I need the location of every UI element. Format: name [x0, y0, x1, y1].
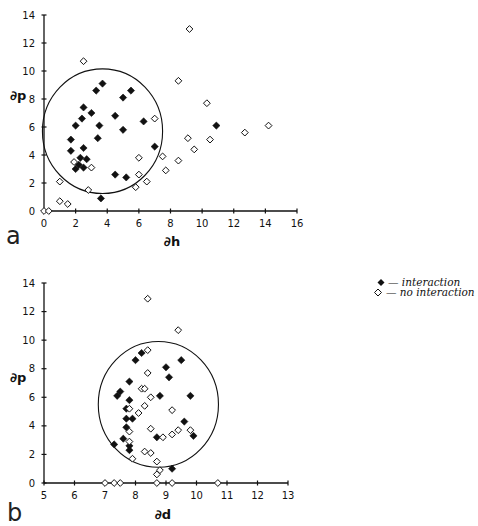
data-point-no-interaction	[175, 327, 182, 334]
data-point-no-interaction	[135, 154, 142, 161]
y-tick-label: 0	[29, 478, 35, 489]
data-point-no-interaction	[169, 480, 176, 487]
y-tick-label: 6	[29, 392, 35, 403]
data-point-no-interaction	[141, 402, 148, 409]
y-tick-label: 10	[22, 335, 35, 346]
data-point-no-interaction	[147, 425, 154, 432]
data-point-interaction	[156, 392, 163, 399]
data-point-no-interaction	[184, 135, 191, 142]
data-point-no-interaction	[207, 136, 214, 143]
y-tick-label: 2	[29, 178, 35, 189]
open-diamond-icon	[375, 289, 382, 296]
data-point-no-interaction	[102, 480, 109, 487]
data-point-interaction	[80, 104, 87, 111]
data-point-interaction	[187, 392, 194, 399]
data-point-interaction	[80, 144, 87, 151]
y-tick-label: 4	[29, 420, 35, 431]
y-tick-label: 14	[22, 10, 35, 21]
x-tick-label: 16	[291, 218, 304, 229]
data-point-interaction	[67, 147, 74, 154]
data-point-interaction	[126, 397, 133, 404]
data-point-interaction	[112, 112, 119, 119]
data-point-no-interaction	[153, 480, 160, 487]
y-tick-label: 8	[29, 363, 35, 374]
data-point-interaction	[126, 447, 133, 454]
data-point-no-interaction	[203, 100, 210, 107]
data-point-no-interaction	[143, 178, 150, 185]
data-point-no-interaction	[169, 431, 176, 438]
data-point-no-interaction	[191, 146, 198, 153]
data-point-no-interaction	[147, 394, 154, 401]
data-point-no-interaction	[144, 347, 151, 354]
data-point-no-interaction	[162, 167, 169, 174]
x-tick-label: 10	[190, 490, 203, 501]
x-tick-label: 7	[102, 490, 108, 501]
data-point-interaction	[127, 87, 134, 94]
data-point-no-interaction	[135, 410, 142, 417]
y-tick-label: 8	[29, 94, 35, 105]
data-point-interaction	[165, 374, 172, 381]
data-point-interaction	[99, 80, 106, 87]
data-point-interaction	[93, 87, 100, 94]
data-point-no-interaction	[265, 122, 272, 129]
data-point-no-interaction	[129, 455, 136, 462]
x-tick-label: 8	[132, 490, 138, 501]
x-tick-label: 8	[167, 218, 173, 229]
x-tick-label: 9	[163, 490, 169, 501]
legend: — interaction — no interaction	[375, 276, 475, 298]
data-point-interaction	[88, 109, 95, 116]
data-point-interaction	[77, 154, 84, 161]
x-tick-label: 4	[104, 218, 110, 229]
x-tick-label: 0	[41, 218, 47, 229]
x-tick-label: 14	[259, 218, 272, 229]
figure: 024681012141602468101214∂h∂pa 5678910111…	[0, 0, 478, 526]
panel-label: b	[7, 499, 22, 526]
y-tick-label: 12	[22, 306, 35, 317]
grouping-circle	[98, 342, 218, 468]
data-point-no-interaction	[117, 480, 124, 487]
data-point-interaction	[83, 156, 90, 163]
data-point-interaction	[67, 136, 74, 143]
x-tick-label: 2	[72, 218, 78, 229]
data-point-no-interaction	[64, 201, 71, 208]
x-tick-label: 6	[71, 490, 77, 501]
data-point-no-interaction	[214, 480, 221, 487]
data-point-interaction	[94, 135, 101, 142]
x-tick-label: 13	[282, 490, 295, 501]
data-point-no-interaction	[175, 427, 182, 434]
data-point-interaction	[123, 174, 130, 181]
data-point-interaction	[97, 195, 104, 202]
data-point-interaction	[111, 441, 118, 448]
data-point-no-interaction	[169, 407, 176, 414]
data-point-no-interaction	[56, 198, 63, 205]
data-point-interaction	[72, 122, 79, 129]
data-point-no-interaction	[88, 164, 95, 171]
filled-diamond-icon	[378, 279, 385, 286]
data-point-no-interaction	[126, 438, 133, 445]
data-point-interaction	[213, 122, 220, 129]
data-point-no-interaction	[45, 208, 52, 215]
data-point-interaction	[151, 143, 158, 150]
data-point-interaction	[119, 94, 126, 101]
data-point-no-interaction	[160, 434, 167, 441]
data-point-no-interaction	[80, 58, 87, 65]
data-point-interaction	[78, 115, 85, 122]
data-point-interaction	[129, 415, 136, 422]
x-axis-title: ∂h	[164, 234, 180, 249]
data-point-no-interaction	[144, 295, 151, 302]
y-axis-title: ∂p	[10, 88, 26, 103]
y-axis-title: ∂p	[10, 370, 26, 385]
data-point-no-interaction	[175, 77, 182, 84]
x-tick-label: 6	[136, 218, 142, 229]
data-point-no-interaction	[175, 157, 182, 164]
data-point-no-interaction	[151, 115, 158, 122]
chart-panel-b: 567891011121302468101214∂d∂pb	[7, 278, 294, 526]
y-tick-label: 14	[22, 278, 35, 289]
y-tick-label: 2	[29, 449, 35, 460]
legend-label-no-interaction: — no interaction	[386, 286, 475, 298]
data-point-no-interaction	[147, 450, 154, 457]
y-tick-label: 6	[29, 122, 35, 133]
data-point-interaction	[126, 378, 133, 385]
data-point-no-interaction	[186, 26, 193, 33]
data-point-no-interaction	[241, 129, 248, 136]
